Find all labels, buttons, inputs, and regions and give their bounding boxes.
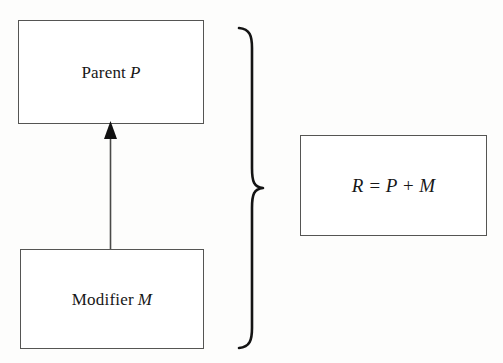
modifier-node-label-text: Modifier [72,290,134,309]
parent-node-label-text: Parent [81,63,126,82]
result-formula-box[interactable]: R = P + M [300,135,487,236]
modifier-node-label: ModifierM [72,291,152,308]
modifier-node-box[interactable]: ModifierM [20,249,204,349]
parent-node-label: ParentP [81,64,140,81]
parent-node-symbol: P [126,63,141,82]
inheritance-arrow [98,118,124,252]
diagram-canvas: ParentP ModifierM R = P + M [0,0,503,363]
modifier-node-symbol: M [134,290,152,309]
result-formula-text: R = P + M [352,176,435,195]
group-brace-icon [230,18,272,358]
parent-node-box[interactable]: ParentP [18,20,204,124]
